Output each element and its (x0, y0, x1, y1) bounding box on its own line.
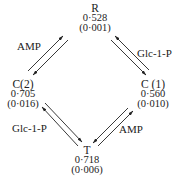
node-r-error: (0·001) (72, 23, 118, 33)
arrow-c2-to-t (45, 103, 82, 142)
node-t: T 0·718 (0·006) (64, 145, 110, 175)
node-c2: C(2) 0·705 (0·016) (0, 79, 46, 109)
edge-label-r-c2: AMP (17, 40, 41, 52)
edge-label-c2-t: Glc-1-P (12, 122, 47, 134)
edge-label-r-c1: Glc-1-P (137, 47, 172, 59)
arrow-t-to-c2 (42, 107, 78, 146)
node-c2-error: (0·016) (0, 99, 46, 109)
node-r: R 0·528 (0·001) (72, 3, 118, 33)
node-t-error: (0·006) (64, 165, 110, 175)
edge-label-c1-t: AMP (119, 123, 143, 135)
node-c1-error: (0·010) (130, 99, 176, 109)
node-c1: C (1) 0·560 (0·010) (130, 79, 176, 109)
